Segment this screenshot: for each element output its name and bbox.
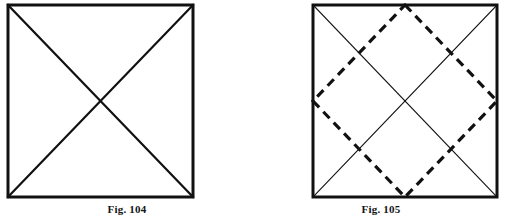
figure-page: Fig. 104 Fig. 105	[0, 0, 508, 217]
figure-104: Fig. 104	[0, 0, 254, 217]
figure-105-caption: Fig. 105	[254, 203, 508, 216]
figure-105-drawing	[254, 0, 508, 203]
figure-104-caption: Fig. 104	[0, 203, 254, 216]
figure-105: Fig. 105	[254, 0, 508, 217]
figure-104-drawing	[0, 0, 254, 203]
